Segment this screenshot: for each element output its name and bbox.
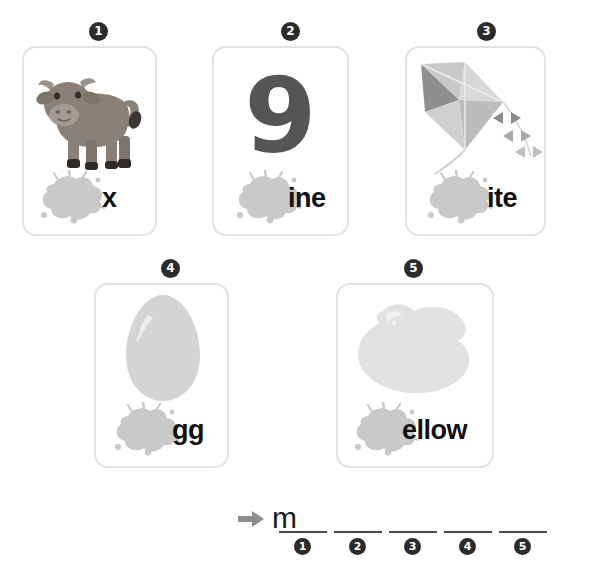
paint-blob-icon (338, 289, 496, 409)
word-card-5[interactable]: ellow (336, 283, 494, 468)
answer-blank-4[interactable]: 4 (444, 531, 492, 533)
word-ending-2: ine (288, 183, 326, 214)
answer-blank-3[interactable]: 3 (389, 531, 437, 533)
blank-number-badge-5: 5 (514, 538, 531, 555)
blank-rule (279, 531, 327, 533)
card-number-badge-5: 5 (404, 259, 423, 278)
egg-icon (96, 289, 231, 409)
word-ending-1: x (102, 183, 117, 214)
card-number-badge-3: 3 (477, 22, 496, 41)
egg-illustration (96, 289, 227, 409)
card-word-4: gg (96, 400, 227, 458)
ox-illustration (24, 54, 155, 174)
word-card-3[interactable]: ite (405, 46, 546, 236)
blank-number-badge-2: 2 (349, 538, 366, 555)
blank-number-badge-3: 3 (404, 538, 421, 555)
ink-splat-icon (423, 170, 495, 224)
blank-number-badge-1: 1 (294, 538, 311, 555)
arrow-right-icon (238, 511, 264, 531)
card-number-badge-2: 2 (281, 22, 300, 41)
answer-blanks: 1 2 3 4 5 (279, 531, 599, 565)
numeral-nine-illustration: 9 (214, 54, 347, 174)
card-word-1: x (24, 168, 155, 226)
ink-splat-icon (36, 170, 108, 224)
card-word-5: ellow (338, 400, 492, 458)
card-number-badge-1: 1 (89, 22, 108, 41)
answer-blank-2[interactable]: 2 (334, 531, 382, 533)
card-word-3: ite (407, 168, 544, 226)
kite-icon (407, 54, 548, 179)
word-card-4[interactable]: gg (94, 283, 229, 468)
answer-blank-1[interactable]: 1 (279, 531, 327, 533)
word-card-1[interactable]: x (22, 46, 157, 236)
card-number-badge-4: 4 (161, 259, 180, 278)
yellow-paint-blob-illustration (338, 289, 492, 409)
numeral-nine: 9 (214, 56, 347, 176)
word-ending-4: gg (172, 415, 204, 446)
card-word-2: ine (214, 168, 347, 226)
worksheet-page: 1 (0, 0, 603, 567)
word-ending-5: ellow (402, 415, 467, 446)
kite-illustration (407, 54, 544, 174)
answer-row: m 1 2 3 4 5 (238, 500, 598, 560)
word-card-2[interactable]: 9 ine (212, 46, 349, 236)
blank-rule (389, 531, 437, 533)
blank-rule (444, 531, 492, 533)
blank-rule (334, 531, 382, 533)
ox-icon (24, 54, 159, 174)
blank-rule (499, 531, 547, 533)
word-ending-3: ite (487, 183, 517, 214)
answer-blank-5[interactable]: 5 (499, 531, 547, 533)
blank-number-badge-4: 4 (459, 538, 476, 555)
